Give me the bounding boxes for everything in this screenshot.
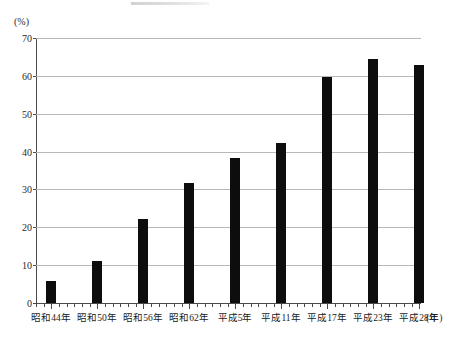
x-tick-minor: [320, 304, 321, 307]
gridline-20: [36, 227, 421, 228]
x-tick-minor: [166, 304, 167, 307]
x-axis-tick-marks: [36, 304, 422, 309]
x-tick-minor: [396, 304, 397, 307]
x-tick-minor: [266, 304, 267, 307]
x-tick-label-平成23年: 平成23年: [353, 310, 393, 324]
bar-平成11年: [276, 143, 286, 303]
x-tick-minor: [358, 304, 359, 307]
x-tick-label-昭和44年: 昭和44年: [31, 310, 71, 324]
x-tick-minor: [228, 304, 229, 307]
bar-昭和56年: [138, 219, 148, 303]
x-tick-major-2: [143, 304, 144, 309]
cropped-line-artifact: [131, 2, 209, 5]
x-tick-major-8: [419, 304, 420, 309]
x-tick-minor: [366, 304, 367, 307]
x-tick-major-0: [51, 304, 52, 309]
bar-chart: (%) 010203040506070 昭和44年昭和50年昭和56年昭和62年…: [0, 0, 469, 344]
y-axis-tick-marks: [0, 38, 40, 303]
bar-昭和50年: [92, 261, 102, 303]
plot-area: [36, 38, 421, 303]
x-tick-minor: [113, 304, 114, 307]
x-tick-minor: [74, 304, 75, 307]
x-tick-minor: [197, 304, 198, 307]
x-tick-label-平成17年: 平成17年: [307, 310, 347, 324]
x-tick-minor: [174, 304, 175, 307]
bar-平成28年: [414, 65, 424, 304]
gridline-30: [36, 189, 421, 190]
cropped-caption-artifact: [104, 330, 400, 338]
x-tick-minor: [381, 304, 382, 307]
x-tick-minor: [312, 304, 313, 307]
x-tick-minor: [128, 304, 129, 307]
x-tick-minor: [297, 304, 298, 307]
bar-昭和62年: [184, 183, 194, 303]
x-tick-minor: [159, 304, 160, 307]
x-tick-minor: [343, 304, 344, 307]
x-tick-minor: [335, 304, 336, 307]
x-tick-minor: [151, 304, 152, 307]
bar-平成5年: [230, 158, 240, 303]
x-tick-minor: [82, 304, 83, 307]
bar-平成23年: [368, 59, 378, 303]
x-tick-minor: [105, 304, 106, 307]
x-tick-minor: [220, 304, 221, 307]
x-tick-minor: [274, 304, 275, 307]
x-tick-minor: [258, 304, 259, 307]
x-tick-major-1: [97, 304, 98, 309]
x-tick-minor: [67, 304, 68, 307]
x-tick-minor: [59, 304, 60, 307]
x-tick-label-平成5年: 平成5年: [218, 310, 253, 324]
x-tick-major-4: [235, 304, 236, 309]
x-tick-major-7: [373, 304, 374, 309]
x-tick-label-昭和62年: 昭和62年: [169, 310, 209, 324]
x-tick-minor: [412, 304, 413, 307]
x-tick-minor: [36, 304, 37, 307]
x-tick-major-3: [189, 304, 190, 309]
x-tick-minor: [44, 304, 45, 307]
x-tick-minor: [205, 304, 206, 307]
gridline-70: [36, 38, 421, 39]
x-tick-minor: [304, 304, 305, 307]
x-tick-minor: [289, 304, 290, 307]
x-axis-unit-label: (年): [426, 310, 442, 324]
x-tick-minor: [243, 304, 244, 307]
bar-平成17年: [322, 77, 332, 303]
x-tick-major-6: [327, 304, 328, 309]
x-tick-minor: [389, 304, 390, 307]
x-tick-minor: [251, 304, 252, 307]
x-tick-minor: [136, 304, 137, 307]
x-tick-major-5: [281, 304, 282, 309]
y-axis-unit-label: (%): [14, 16, 29, 27]
x-tick-minor: [182, 304, 183, 307]
x-tick-minor: [350, 304, 351, 307]
bar-昭和44年: [46, 281, 56, 303]
x-axis-tick-labels: 昭和44年昭和50年昭和56年昭和62年平成5年平成11年平成17年平成23年平…: [0, 310, 469, 326]
x-tick-minor: [120, 304, 121, 307]
x-tick-minor: [404, 304, 405, 307]
x-tick-minor: [212, 304, 213, 307]
x-tick-label-昭和56年: 昭和56年: [123, 310, 163, 324]
x-tick-label-平成11年: 平成11年: [261, 310, 300, 324]
gridline-40: [36, 152, 421, 153]
x-tick-minor: [90, 304, 91, 307]
gridline-60: [36, 76, 421, 77]
x-tick-label-昭和50年: 昭和50年: [77, 310, 117, 324]
gridline-50: [36, 114, 421, 115]
